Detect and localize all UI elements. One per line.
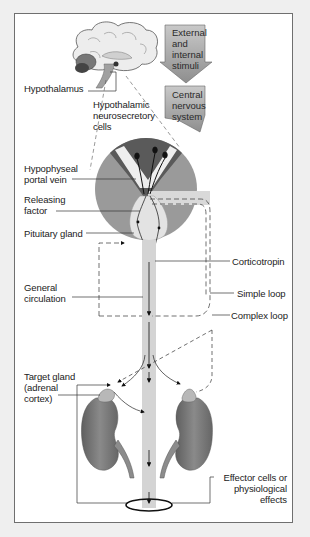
label-corticotropin: Corticotropin xyxy=(232,256,285,267)
endocrine-feedback-diagram xyxy=(0,0,310,537)
label-hypophyseal-portal-vein: Hypophyseal portal vein xyxy=(24,163,78,185)
label-effector-cells: Effector cells or physiological effects xyxy=(213,472,287,505)
brain-icon xyxy=(73,22,157,88)
label-releasing-factor: Releasing factor xyxy=(24,194,65,216)
label-hypothalamus: Hypothalamus xyxy=(24,83,84,94)
label-complex-loop: Complex loop xyxy=(231,310,288,321)
label-hypothalamic-neurosecretory-cells: Hypothalamic neurosecretory cells xyxy=(93,99,155,132)
label-pituitary-gland: Pituitary gland xyxy=(24,228,83,239)
left-kidney-icon xyxy=(82,389,134,478)
label-simple-loop: Simple loop xyxy=(237,288,286,299)
label-general-circulation: General circulation xyxy=(24,282,66,304)
cns-text: Central nervous system xyxy=(172,89,206,122)
right-kidney-icon xyxy=(160,389,212,478)
label-target-gland: Target gland (adrenal cortex) xyxy=(24,371,75,404)
stimuli-text: External and internal stimuli xyxy=(172,27,207,71)
